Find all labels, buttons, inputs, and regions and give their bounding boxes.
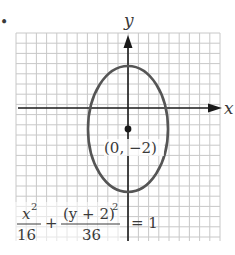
bullet-marker: • — [0, 14, 8, 30]
ellipse-equation: x 2 16 + (y + 2) 2 36 = 1 — [14, 201, 158, 246]
equation-term2-denominator: 36 — [82, 226, 101, 244]
equation-term1-denominator: 16 — [17, 226, 36, 244]
equation-term1-exponent: 2 — [31, 201, 37, 212]
equation-equals-one: = 1 — [131, 214, 158, 232]
equation-term2-numerator: (y + 2) — [63, 205, 115, 223]
x-axis-label: x — [224, 98, 234, 118]
ellipse-graph-figure: • x y (0, −2) x 2 16 + (y + 2) 2 36 = 1 — [0, 0, 235, 255]
graph-canvas: • x y (0, −2) x 2 16 + (y + 2) 2 36 = 1 — [0, 0, 235, 255]
center-point-label: (0, −2) — [104, 139, 157, 157]
y-axis-label: y — [123, 10, 134, 30]
equation-term1-numerator: x — [22, 205, 31, 223]
y-axis-arrow-icon — [124, 35, 133, 48]
equation-plus-sign: + — [45, 214, 58, 232]
equation-term2-exponent: 2 — [112, 201, 118, 212]
center-point — [125, 126, 132, 133]
